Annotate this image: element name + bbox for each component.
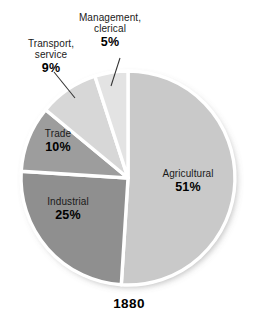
pie-chart-figure: Management, clerical 5% Transport, servi… <box>0 0 258 331</box>
slice-percent-trade: 10% <box>20 140 96 154</box>
slice-label-industrial-line1: Industrial <box>24 196 112 207</box>
slice-percent-agricultural: 51% <box>140 180 236 194</box>
slice-label-industrial: Industrial 25% <box>24 196 112 222</box>
pie-slice-industrial[interactable] <box>21 171 128 285</box>
slice-label-transport-service: Transport, service 9% <box>6 38 96 75</box>
slice-percent-industrial: 25% <box>24 208 112 222</box>
slice-label-management-clerical-line1: Management, <box>62 12 158 23</box>
slice-percent-transport-service: 9% <box>6 61 96 75</box>
slice-label-transport-service-line2: service <box>6 49 96 60</box>
slice-label-agricultural-line1: Agricultural <box>140 168 236 179</box>
slice-label-agricultural: Agricultural 51% <box>140 168 236 194</box>
chart-year-label: 1880 <box>0 296 258 311</box>
slice-label-transport-service-line1: Transport, <box>6 38 96 49</box>
slice-label-management-clerical-line2: clerical <box>62 23 158 34</box>
slice-label-trade: Trade 10% <box>20 128 96 154</box>
slice-label-trade-line1: Trade <box>20 128 96 139</box>
